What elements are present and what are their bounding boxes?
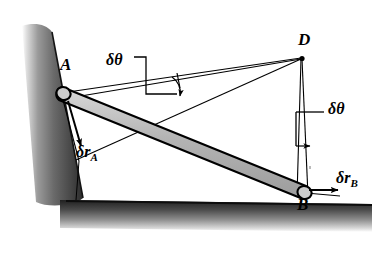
- delta-r-a-symbol: δr: [76, 143, 90, 160]
- label-delta-theta-right: δθ: [328, 101, 345, 117]
- rod-ab: [54, 85, 313, 201]
- label-delta-r-a: δrA: [76, 144, 98, 163]
- instant-centre-dot: [299, 56, 304, 61]
- diagram-svg: [0, 0, 372, 272]
- line-a-to-d-lower: [63, 59, 301, 99]
- delta-theta-right-leader: [296, 112, 324, 146]
- construction-lines: [62, 58, 340, 200]
- label-point-d: D: [298, 31, 310, 48]
- label-point-a: A: [60, 56, 71, 73]
- line-d-to-b-right: [302, 59, 308, 196]
- label-delta-r-b: δrB: [336, 170, 358, 189]
- ground-surface: [60, 200, 372, 232]
- delta-r-b-symbol: δr: [336, 169, 350, 186]
- delta-r-b-subscript: B: [350, 177, 357, 189]
- label-delta-theta-left: δθ: [106, 52, 123, 68]
- figure-canvas: A B D δθ δθ δrA δrB: [0, 0, 372, 272]
- line-d-to-b-left: [297, 59, 301, 196]
- delta-r-a-subscript: A: [90, 151, 97, 163]
- wall-surface: [22, 24, 83, 205]
- label-point-b: B: [297, 196, 308, 213]
